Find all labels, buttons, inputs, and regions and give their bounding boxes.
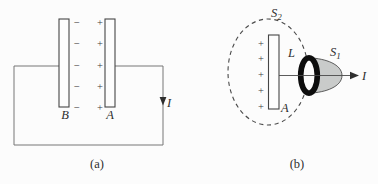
plus-sign: + [97,60,103,71]
plate-b-label: B [61,108,69,122]
caption-b: (b) [290,157,305,171]
current-label: I [361,69,367,83]
plus-sign: + [258,85,264,96]
current-arrow-down-icon [160,97,167,106]
plus-sign: + [258,38,264,49]
plus-sign: + [97,38,103,49]
minus-sign: − [74,17,80,28]
minus-sign: − [74,60,80,71]
plus-sign: + [258,101,264,112]
plus-sign: + [258,53,264,64]
physics-figure: − − − − − + + + + + B A I (a) + + + + + … [0,0,378,184]
current-label: I [166,96,172,110]
circuit-wire [14,66,163,145]
panel-b: + + + + + S2 S1 L A I (b) [228,6,367,171]
plus-sign: + [97,102,103,113]
current-arrow-right-icon [350,72,359,80]
plus-sign: + [97,17,103,28]
diagram-canvas: − − − − − + + + + + B A I (a) + + + + + … [0,0,378,184]
plus-sign: + [97,81,103,92]
loop-l-label: L [287,46,295,60]
plate-a [105,19,115,107]
plate-a-label: A [280,101,289,115]
plate-a-label: A [105,108,114,122]
minus-sign: − [74,102,80,113]
plate-b [59,19,69,107]
plus-sign: + [258,69,264,80]
caption-a: (a) [90,157,104,171]
minus-sign: − [74,81,80,92]
surface-s2-label: S2 [271,6,282,22]
surface-s1-label: S1 [330,45,341,61]
panel-a: − − − − − + + + + + B A I (a) [14,17,172,172]
minus-sign: − [74,38,80,49]
plate-a-right [269,35,280,109]
